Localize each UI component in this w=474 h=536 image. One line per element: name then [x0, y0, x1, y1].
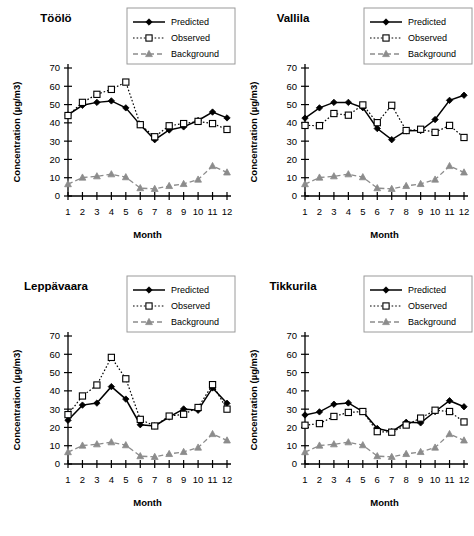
- svg-text:9: 9: [418, 474, 423, 485]
- svg-text:Concentration (µg/m3): Concentration (µg/m3): [248, 81, 259, 182]
- svg-text:70: 70: [286, 330, 297, 341]
- svg-text:7: 7: [152, 206, 157, 217]
- svg-text:Tikkurila: Tikkurila: [269, 280, 317, 292]
- y-axis-label-leppavaara: Concentration (µg/m3): [11, 349, 22, 450]
- svg-text:60: 60: [286, 349, 297, 360]
- svg-text:30: 30: [286, 404, 297, 415]
- svg-text:10: 10: [193, 206, 204, 217]
- data-point: [331, 99, 337, 105]
- data-point: [446, 162, 453, 168]
- legend-label: Predicted: [408, 285, 446, 295]
- series-predicted-toolo: [65, 98, 230, 143]
- svg-text:6: 6: [375, 474, 380, 485]
- data-point: [209, 430, 216, 436]
- data-point: [209, 162, 216, 168]
- svg-text:9: 9: [181, 474, 186, 485]
- chart-svg-toolo: TöölöConcentration (µg/m3)01020304050607…: [0, 0, 237, 268]
- svg-text:4: 4: [346, 206, 351, 217]
- chart-svg-vallila: VallilaConcentration (µg/m3)010203040506…: [237, 0, 474, 268]
- data-point: [94, 91, 100, 97]
- data-point: [316, 420, 322, 426]
- svg-text:40: 40: [49, 117, 60, 128]
- x-axis-label-vallila: Month: [370, 229, 399, 240]
- data-point: [446, 430, 453, 436]
- data-point: [360, 102, 366, 108]
- legend-marker-square-icon: [146, 303, 152, 309]
- data-point: [345, 409, 351, 415]
- svg-text:20: 20: [286, 422, 297, 433]
- svg-text:8: 8: [404, 206, 409, 217]
- data-point: [345, 171, 352, 177]
- data-point: [389, 429, 395, 435]
- svg-text:10: 10: [286, 440, 297, 451]
- y-axis-label-vallila: Concentration (µg/m3): [248, 81, 259, 182]
- svg-text:7: 7: [389, 206, 394, 217]
- svg-text:6: 6: [138, 474, 143, 485]
- svg-text:3: 3: [94, 474, 99, 485]
- svg-text:Month: Month: [370, 229, 399, 240]
- data-point: [108, 439, 115, 445]
- svg-text:Vallila: Vallila: [277, 12, 310, 24]
- chart-svg-leppavaara: LeppävaaraConcentration (µg/m3)010203040…: [0, 268, 237, 536]
- svg-text:Month: Month: [370, 497, 399, 508]
- data-point: [374, 429, 380, 435]
- legend-label: Background: [171, 317, 219, 327]
- data-point: [345, 439, 352, 445]
- legend-label: Predicted: [408, 17, 446, 27]
- svg-text:8: 8: [167, 206, 172, 217]
- data-point: [461, 419, 467, 425]
- chart-panel-leppavaara: LeppävaaraConcentration (µg/m3)010203040…: [0, 268, 237, 536]
- svg-text:11: 11: [445, 474, 455, 485]
- svg-text:40: 40: [286, 117, 297, 128]
- data-point: [166, 182, 173, 188]
- chart-title-vallila: Vallila: [277, 12, 310, 24]
- series-predicted-tikkurila: [302, 398, 467, 435]
- legend-label: Predicted: [171, 285, 209, 295]
- data-point: [108, 354, 114, 360]
- svg-text:12: 12: [459, 206, 470, 217]
- data-point: [108, 171, 115, 177]
- svg-text:3: 3: [331, 206, 336, 217]
- data-point: [166, 413, 172, 419]
- svg-text:Concentration (µg/m3): Concentration (µg/m3): [248, 349, 259, 450]
- data-point: [446, 122, 452, 128]
- svg-text:7: 7: [152, 474, 157, 485]
- svg-text:2: 2: [317, 474, 322, 485]
- svg-text:60: 60: [286, 81, 297, 92]
- data-point: [331, 401, 337, 407]
- series-observed-toolo: [65, 79, 230, 140]
- data-point: [152, 134, 158, 140]
- legend-tikkurila: PredictedObservedBackground: [364, 276, 472, 332]
- data-point: [345, 112, 351, 118]
- data-point: [181, 120, 187, 126]
- svg-text:20: 20: [49, 154, 60, 165]
- data-point: [345, 400, 351, 406]
- svg-text:5: 5: [360, 206, 365, 217]
- svg-text:5: 5: [360, 474, 365, 485]
- svg-text:60: 60: [49, 349, 60, 360]
- chart-panel-tikkurila: TikkurilaConcentration (µg/m3)0102030405…: [237, 268, 474, 536]
- data-point: [152, 423, 158, 429]
- svg-text:12: 12: [459, 474, 470, 485]
- svg-text:11: 11: [445, 206, 455, 217]
- svg-text:70: 70: [49, 62, 60, 73]
- data-point: [181, 411, 187, 417]
- data-point: [302, 412, 308, 418]
- svg-text:2: 2: [80, 206, 85, 217]
- svg-text:4: 4: [109, 474, 114, 485]
- data-point: [123, 376, 129, 382]
- data-point: [446, 408, 452, 414]
- svg-text:2: 2: [317, 206, 322, 217]
- data-point: [316, 409, 322, 415]
- data-point: [360, 408, 366, 414]
- series-background-tikkurila: [302, 430, 468, 459]
- svg-text:10: 10: [49, 440, 60, 451]
- data-point: [418, 126, 424, 132]
- data-point: [389, 102, 395, 108]
- data-point: [65, 412, 71, 418]
- svg-text:8: 8: [404, 474, 409, 485]
- legend-label: Background: [171, 49, 219, 59]
- data-point: [209, 109, 215, 115]
- chart-title-leppavaara: Leppävaara: [24, 280, 89, 292]
- svg-text:1: 1: [302, 206, 307, 217]
